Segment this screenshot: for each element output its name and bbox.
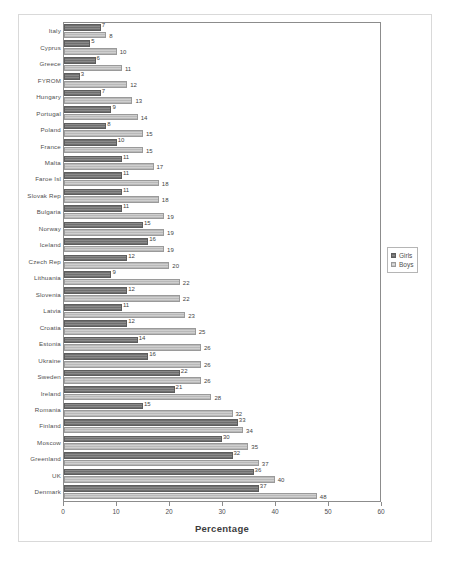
- bar-row: Ukraine1626: [64, 352, 380, 368]
- bar-row: Faroe Isl1118: [64, 171, 380, 187]
- bar-boys: [64, 180, 159, 187]
- bar-boys: [64, 48, 117, 55]
- bar-value-label: 33: [239, 417, 246, 423]
- bar-row: Bulgaria1119: [64, 204, 380, 220]
- bar-group: 3748: [64, 484, 380, 500]
- legend-item-girls[interactable]: Girls: [391, 251, 413, 260]
- bar-value-label: 18: [162, 197, 169, 203]
- bar-value-label: 16: [149, 351, 156, 357]
- bar-group: 2226: [64, 369, 380, 385]
- bar-boys: [64, 262, 169, 269]
- category-label: Slovak Rep: [27, 193, 61, 199]
- x-axis-tick: [328, 502, 329, 506]
- bar-value-label: 36: [255, 467, 262, 473]
- bar-group: 1119: [64, 204, 380, 220]
- category-label: Romania: [35, 407, 61, 413]
- bar-boys: [64, 130, 143, 137]
- bar-girls: [64, 73, 80, 80]
- bar-row: Lithuania922: [64, 270, 380, 286]
- bar-value-label: 12: [130, 82, 137, 88]
- bar-row: Czech Rep1220: [64, 254, 380, 270]
- bar-girls: [64, 139, 117, 146]
- bar-value-label: 19: [167, 230, 174, 236]
- category-label: Poland: [41, 127, 61, 133]
- category-label: Latvia: [43, 308, 61, 314]
- category-label: Moscow: [37, 440, 61, 446]
- bar-value-label: 28: [214, 395, 221, 401]
- category-label: Lithuania: [34, 275, 61, 281]
- bar-girls: [64, 353, 148, 360]
- x-axis-tick-label: 30: [218, 508, 225, 515]
- bar-group: 1619: [64, 237, 380, 253]
- bar-row: Sweden2226: [64, 369, 380, 385]
- category-label: UK: [52, 473, 61, 479]
- bar-value-label: 26: [204, 362, 211, 368]
- bar-group: 922: [64, 270, 380, 286]
- category-label: Greenland: [30, 456, 61, 462]
- category-label: Czech Rep: [29, 259, 61, 265]
- category-label: Faroe Isl: [35, 176, 61, 182]
- x-axis-tick: [222, 502, 223, 506]
- bar-group: 1519: [64, 221, 380, 237]
- bar-group: 510: [64, 39, 380, 55]
- legend-item-boys[interactable]: Boys: [391, 260, 413, 269]
- bar-value-label: 22: [181, 368, 188, 374]
- x-axis-tick-label: 0: [61, 508, 65, 515]
- bar-girls: [64, 370, 180, 377]
- bar-boys: [64, 114, 138, 121]
- bar-value-label: 10: [118, 137, 125, 143]
- bar-group: 1118: [64, 188, 380, 204]
- bar-group: 1532: [64, 402, 380, 418]
- bar-row: Estonia1426: [64, 336, 380, 352]
- bar-value-label: 15: [144, 220, 151, 226]
- bar-value-label: 7: [102, 22, 105, 28]
- bar-girls: [64, 57, 96, 64]
- x-axis: 0102030405060: [63, 502, 381, 542]
- bar-value-label: 12: [128, 253, 135, 259]
- bar-row: France1015: [64, 138, 380, 154]
- bar-row: UK3640: [64, 468, 380, 484]
- x-axis-tick-label: 10: [112, 508, 119, 515]
- bar-girls: [64, 222, 143, 229]
- bar-group: 1117: [64, 155, 380, 171]
- chart-legend: Girls Boys: [387, 247, 418, 273]
- bar-value-label: 30: [223, 434, 230, 440]
- bar-value-label: 8: [109, 33, 112, 39]
- category-label: Cyprus: [40, 45, 61, 51]
- x-axis-tick-label: 40: [271, 508, 278, 515]
- bar-boys: [64, 295, 180, 302]
- bar-group: 1426: [64, 336, 380, 352]
- bar-boys: [64, 65, 122, 72]
- bar-value-label: 21: [176, 384, 183, 390]
- bar-boys: [64, 246, 164, 253]
- chart-container: Italy78Cyprus510Greece611FYROM312Hungary…: [0, 0, 451, 566]
- bar-group: 1015: [64, 138, 380, 154]
- x-axis-tick: [116, 502, 117, 506]
- bar-girls: [64, 403, 143, 410]
- bar-value-label: 7: [102, 88, 105, 94]
- category-label: Bulgaria: [37, 209, 61, 215]
- bar-girls: [64, 238, 148, 245]
- bar-value-label: 26: [204, 345, 211, 351]
- bar-value-label: 16: [149, 236, 156, 242]
- bar-boys: [64, 460, 259, 467]
- bar-value-label: 25: [199, 329, 206, 335]
- bar-rows: Italy78Cyprus510Greece611FYROM312Hungary…: [64, 23, 380, 501]
- bar-group: 713: [64, 89, 380, 105]
- bar-girls: [64, 90, 101, 97]
- category-label: Norway: [39, 226, 61, 232]
- bar-group: 1220: [64, 254, 380, 270]
- x-axis-title: Percentage: [63, 523, 381, 534]
- bar-row: Denmark3748: [64, 484, 380, 500]
- bar-boys: [64, 97, 132, 104]
- bar-row: Slovak Rep1118: [64, 188, 380, 204]
- x-axis-tick: [275, 502, 276, 506]
- bar-girls: [64, 40, 90, 47]
- bar-row: Portugal914: [64, 105, 380, 121]
- x-axis-tick: [381, 502, 382, 506]
- bar-girls: [64, 436, 222, 443]
- bar-group: 611: [64, 56, 380, 72]
- bar-value-label: 15: [146, 148, 153, 154]
- bar-girls: [64, 156, 122, 163]
- category-label: Malta: [45, 160, 61, 166]
